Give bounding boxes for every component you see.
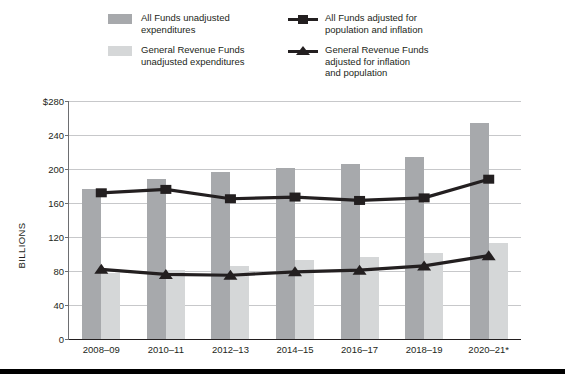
x-axis-label: 2010–11 bbox=[148, 344, 184, 355]
plot-area: 04080120160200240$280 2008–092010–112012… bbox=[68, 101, 521, 340]
y-axis-tick-label: 120 bbox=[48, 232, 64, 243]
legend-swatch-general-revenue-unadjusted bbox=[108, 46, 132, 56]
x-axis-label: 2012–13 bbox=[212, 344, 249, 355]
y-axis-tick-label: 40 bbox=[53, 300, 64, 311]
legend-label-general-revenue-adjusted: General Revenue Funds adjusted for infla… bbox=[325, 44, 429, 79]
x-axis-label: 2018–19 bbox=[406, 344, 443, 355]
marker-square bbox=[483, 175, 494, 184]
chart-container: BILLIONS 04080120160200240$280 2008–0920… bbox=[0, 88, 565, 350]
legend-marker-triangle-line-icon bbox=[288, 45, 318, 57]
marker-square bbox=[160, 185, 171, 194]
y-axis-tick-label: 160 bbox=[48, 198, 64, 209]
marker-square bbox=[96, 188, 107, 197]
legend-label-all-funds-adjusted: All Funds adjusted for population and in… bbox=[325, 12, 423, 35]
marker-square bbox=[290, 193, 301, 202]
marker-square bbox=[354, 196, 365, 205]
x-axis-label: 2016–17 bbox=[341, 344, 378, 355]
legend-column-right: All Funds adjusted for population and in… bbox=[288, 12, 478, 88]
legend-column-left: All Funds unadjusted expenditures Genera… bbox=[108, 12, 298, 76]
chart-legend: All Funds unadjusted expenditures Genera… bbox=[108, 12, 508, 82]
legend-item-all-funds-unadjusted: All Funds unadjusted expenditures bbox=[108, 12, 298, 35]
y-axis-tick-label: $280 bbox=[43, 96, 64, 107]
legend-swatch-all-funds-unadjusted bbox=[108, 14, 132, 24]
x-axis-label: 2014–15 bbox=[277, 344, 314, 355]
legend-label-all-funds-unadjusted: All Funds unadjusted expenditures bbox=[141, 12, 230, 35]
x-axis-label: 2020–21* bbox=[468, 344, 509, 355]
legend-item-general-revenue-adjusted: General Revenue Funds adjusted for infla… bbox=[288, 44, 478, 79]
line-series-group bbox=[69, 101, 521, 339]
y-axis-tick-label: 0 bbox=[59, 334, 64, 345]
legend-label-general-revenue-unadjusted: General Revenue Funds unadjusted expendi… bbox=[141, 44, 245, 67]
legend-item-all-funds-adjusted: All Funds adjusted for population and in… bbox=[288, 12, 478, 35]
legend-marker-square-line-icon bbox=[288, 13, 318, 25]
marker-square bbox=[225, 194, 236, 203]
y-axis-tick bbox=[65, 339, 69, 340]
x-axis-label: 2008–09 bbox=[83, 344, 120, 355]
y-axis-tick-label: 80 bbox=[53, 266, 64, 277]
bottom-rule-divider bbox=[0, 369, 565, 374]
y-axis-title: BILLIONS bbox=[16, 201, 27, 291]
y-axis-tick-label: 200 bbox=[48, 164, 64, 175]
y-axis-tick-label: 240 bbox=[48, 130, 64, 141]
legend-item-general-revenue-unadjusted: General Revenue Funds unadjusted expendi… bbox=[108, 44, 298, 67]
marker-square bbox=[419, 193, 430, 202]
